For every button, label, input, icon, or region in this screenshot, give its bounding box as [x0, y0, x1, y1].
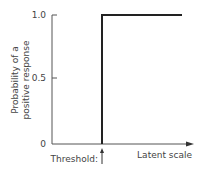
threshold-label: Threshold:: [50, 154, 98, 164]
threshold-up-arrow-icon: [100, 148, 104, 153]
y-axis-title-line-2: positive response: [21, 40, 31, 120]
x-axis-title: Latent scale: [137, 150, 192, 160]
y-tick-label-0: 0: [40, 139, 46, 149]
y-axis-title-line-1: Probability of a: [10, 46, 20, 114]
x-axis-arrow-icon: [186, 142, 194, 147]
chart-canvas: 1.0 0.5 0 Probability of a positive resp…: [0, 0, 202, 175]
y-tick-label-0-5: 0.5: [32, 73, 46, 83]
step-function-line: [102, 15, 182, 144]
y-tick-label-1: 1.0: [32, 10, 47, 20]
